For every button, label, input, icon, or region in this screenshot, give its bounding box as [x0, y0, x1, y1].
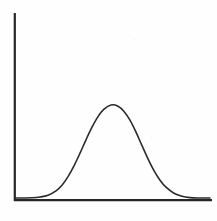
bell-curve-plot [0, 0, 217, 221]
bell-curve-path [16, 105, 210, 198]
figure-root [0, 0, 217, 221]
